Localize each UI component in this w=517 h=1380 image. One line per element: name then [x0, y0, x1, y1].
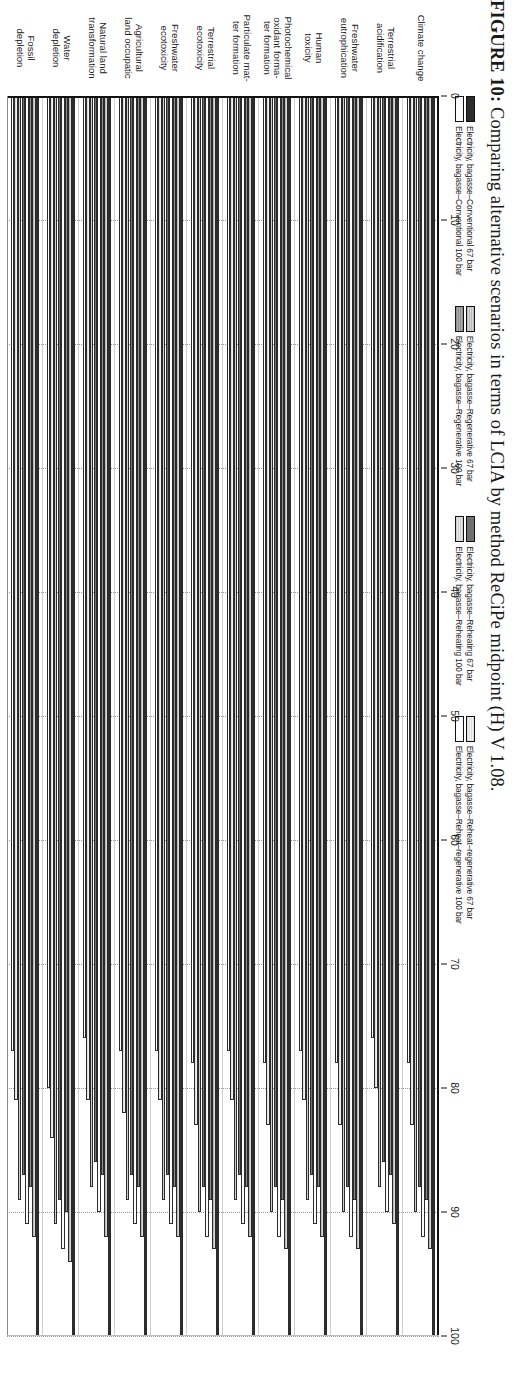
- figure-page: FIGURE 10: Comparing alternative scenari…: [0, 0, 517, 1380]
- bar: [50, 96, 53, 1138]
- category-row: Terrestrialacidification: [367, 96, 403, 1336]
- x-tick-label: 10: [449, 214, 461, 226]
- bar: [18, 96, 21, 1200]
- bar-group: [367, 96, 403, 1336]
- x-tick-mark: [441, 1336, 447, 1337]
- bar: [122, 96, 125, 1113]
- bar: [209, 96, 212, 1200]
- category-label-line: Particulate mat-: [241, 14, 252, 81]
- bar: [356, 96, 359, 1249]
- category-label-line: acidification: [374, 23, 385, 73]
- category-label-line: toxicity: [302, 33, 313, 62]
- bar: [176, 96, 179, 1237]
- bar: [270, 96, 273, 1212]
- category-label: Humantoxicity: [295, 4, 331, 92]
- bar: [346, 96, 349, 1187]
- x-tick-label: 60: [449, 834, 461, 846]
- category-label: Natural landtransformation: [79, 4, 115, 92]
- x-tick-mark: [441, 1212, 447, 1213]
- legend-swatch: [466, 516, 475, 542]
- bar: [155, 96, 158, 1051]
- bar-group: [79, 96, 115, 1336]
- category-label-line: ecotoxicity: [194, 26, 205, 71]
- x-tick-label: 0: [449, 93, 461, 99]
- bar: [29, 96, 32, 1187]
- category-label-line: ter formation: [230, 21, 241, 75]
- category-label-line: Freshwater: [349, 24, 360, 72]
- category-label-line: Climate change: [416, 15, 427, 82]
- bar: [65, 96, 68, 1212]
- bar: [230, 96, 233, 1100]
- bar-group: [223, 96, 259, 1336]
- x-tick-mark: [441, 220, 447, 221]
- category-separator: [366, 96, 367, 1336]
- bar: [432, 96, 435, 1336]
- bar-group: [115, 96, 151, 1336]
- figure-caption-text: Comparing alternative scenarios in terms…: [487, 102, 507, 791]
- bar-group: [43, 96, 79, 1336]
- bar: [281, 96, 284, 1200]
- category-label-line: Water: [61, 35, 72, 60]
- bar: [47, 96, 50, 1088]
- bar: [378, 96, 381, 1187]
- axis-left: [7, 96, 439, 98]
- bar: [382, 96, 385, 1162]
- bar-group: [151, 96, 187, 1336]
- bar: [68, 96, 71, 1262]
- bar: [371, 96, 374, 1038]
- x-axis-ticks: 0102030405060708090100: [441, 96, 461, 1336]
- bar: [97, 96, 100, 1212]
- x-tick-label: 50: [449, 710, 461, 722]
- bar: [162, 96, 165, 1200]
- bar: [385, 96, 388, 1212]
- category-label-line: Freshwater: [169, 24, 180, 72]
- category-label-line: land occupatic: [122, 17, 133, 78]
- category-label-line: Photochemical: [282, 17, 293, 80]
- bar: [349, 96, 352, 1237]
- bar: [266, 96, 269, 1125]
- bar: [238, 96, 241, 1175]
- category-label-line: Fossil: [25, 35, 36, 60]
- bar: [245, 96, 248, 1187]
- axis-top: [437, 96, 439, 1336]
- bar-group: [403, 96, 439, 1336]
- x-tick-mark: [441, 468, 447, 469]
- bar: [94, 96, 97, 1162]
- figure-caption-prefix: FIGURE 10:: [487, 0, 507, 102]
- bar: [274, 96, 277, 1187]
- bar: [14, 96, 17, 1100]
- category-separator: [294, 96, 295, 1336]
- x-tick-label: 20: [449, 338, 461, 350]
- bar: [58, 96, 61, 1200]
- category-label-line: ter formation: [261, 21, 272, 75]
- bar: [324, 96, 327, 1336]
- bar-group: [7, 96, 43, 1336]
- bar: [263, 96, 266, 1063]
- category-label-line: Agricultural: [133, 24, 144, 72]
- bar: [320, 96, 323, 1237]
- category-row: Freshwatereutrophication: [331, 96, 367, 1336]
- category-label: Waterdepletion: [43, 4, 79, 92]
- bar: [428, 96, 431, 1249]
- bar-group: [259, 96, 295, 1336]
- bar: [104, 96, 107, 1237]
- x-tick-label: 80: [449, 1082, 461, 1094]
- category-label: Freshwaterecotoxicity: [151, 4, 187, 92]
- legend-swatch: [466, 306, 475, 332]
- category-row: Natural landtransformation: [79, 96, 115, 1336]
- bar: [54, 96, 57, 1224]
- category-row: Terrestrialecotoxicity: [187, 96, 223, 1336]
- bar: [277, 96, 280, 1237]
- bar: [144, 96, 147, 1336]
- bar: [288, 96, 291, 1336]
- bar: [25, 96, 28, 1224]
- category-separator: [42, 96, 43, 1336]
- bar: [32, 96, 35, 1237]
- bar: [425, 96, 428, 1200]
- category-row: Particulate mat-ter formation: [223, 96, 259, 1336]
- bar: [133, 96, 136, 1224]
- bar: [11, 96, 14, 1051]
- bar: [194, 96, 197, 1125]
- figure-body: Electricity, bagasse–Conventional 67 bar…: [1, 0, 475, 1380]
- rotated-figure-container: FIGURE 10: Comparing alternative scenari…: [0, 0, 517, 1380]
